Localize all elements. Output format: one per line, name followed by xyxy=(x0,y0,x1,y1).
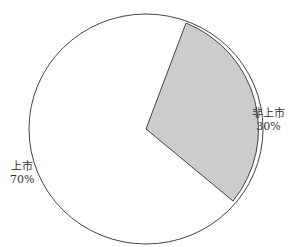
label-listed-name: 上市 xyxy=(10,160,34,173)
pie-chart xyxy=(0,0,292,247)
label-unlisted: 非上市 30% xyxy=(252,107,285,133)
label-unlisted-name: 非上市 xyxy=(252,107,285,120)
label-listed: 上市 70% xyxy=(10,160,34,186)
label-listed-percent: 70% xyxy=(10,173,34,186)
label-unlisted-percent: 30% xyxy=(252,120,285,133)
